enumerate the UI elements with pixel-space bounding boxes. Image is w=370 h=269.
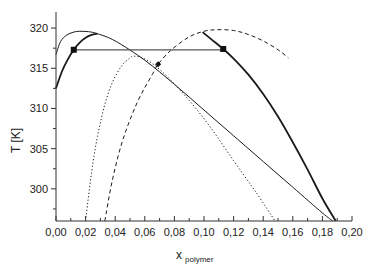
x-tick-label: 0,02	[75, 226, 96, 238]
ticks: 0,000,020,040,060,080,100,120,140,160,18…	[30, 22, 363, 238]
y-tick-label: 310	[30, 102, 48, 114]
x-axis-title-subscript: polymer	[185, 255, 214, 264]
y-tick-label: 305	[30, 143, 48, 155]
x-tick-label: 0,12	[223, 226, 244, 238]
axes	[56, 12, 352, 221]
x-tick-label: 0,14	[252, 226, 273, 238]
x-axis-title: xpolymer	[176, 248, 214, 264]
phase-diagram-chart: 0,000,020,040,060,080,100,120,140,160,18…	[0, 0, 370, 269]
marker-coexistence-right	[220, 46, 226, 52]
y-axis-title: T [K]	[9, 128, 23, 153]
x-tick-label: 0,06	[134, 226, 155, 238]
x-axis-title-main: x	[176, 248, 182, 262]
x-tick-label: 0,08	[164, 226, 185, 238]
plot-area	[56, 30, 336, 221]
y-tick-label: 300	[30, 183, 48, 195]
x-tick-label: 0,00	[45, 226, 66, 238]
marker-coexistence-left	[71, 47, 77, 53]
x-tick-label: 0,20	[341, 226, 362, 238]
series-spinodal-dashed	[105, 30, 289, 221]
y-tick-label: 320	[30, 22, 48, 34]
x-tick-label: 0,18	[312, 226, 333, 238]
x-tick-label: 0,10	[193, 226, 214, 238]
y-tick-label: 315	[30, 62, 48, 74]
series-binodal-thick-left	[56, 34, 97, 89]
series-binodal-thin	[56, 31, 333, 221]
x-tick-label: 0,16	[282, 226, 303, 238]
x-tick-label: 0,04	[104, 226, 125, 238]
series-spinodal-dotted	[86, 56, 275, 221]
